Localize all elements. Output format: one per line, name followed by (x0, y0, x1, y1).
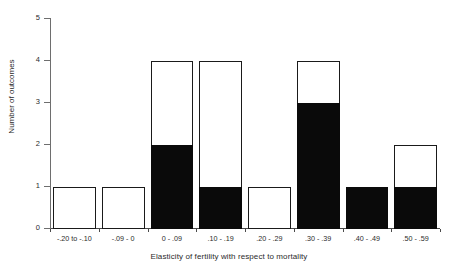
histogram-bar-filled-segment (394, 187, 437, 229)
histogram-bar-filled-segment (199, 187, 242, 229)
histogram-figure: 012345 -.20 to -.10-.09 - 00 - .09.10 - … (0, 0, 458, 277)
x-axis-category-label: 0 - .09 (148, 234, 197, 244)
y-axis-tick-label: 4 (28, 54, 40, 65)
x-axis-category-label: .20 - .29 (245, 234, 294, 244)
x-axis-tick (148, 229, 149, 232)
histogram-bar (394, 145, 437, 229)
x-axis-tick (391, 229, 392, 232)
histogram-bar (151, 61, 194, 229)
bars-layer (50, 18, 440, 229)
x-axis-tick (50, 229, 51, 232)
x-axis-tick (294, 229, 295, 232)
histogram-bar-filled-segment (151, 145, 194, 229)
x-axis-tick (245, 229, 246, 232)
histogram-bar-filled-segment (346, 187, 389, 229)
x-axis-tick (440, 229, 441, 232)
x-axis-category-label: -.20 to -.10 (50, 234, 99, 244)
y-axis-tick-label: 5 (28, 12, 40, 23)
y-axis-tick-label: 2 (28, 138, 40, 149)
histogram-bar (102, 187, 145, 229)
x-axis-tick (196, 229, 197, 232)
x-axis-title: Elasticity of fertility with respect to … (0, 252, 458, 261)
histogram-bar (346, 187, 389, 229)
y-axis-title: Number of outcomes (7, 32, 16, 162)
histogram-bar-filled-segment (297, 103, 340, 229)
x-axis-tick (99, 229, 100, 232)
histogram-bar (248, 187, 291, 229)
x-axis-tick (343, 229, 344, 232)
y-axis-tick-label: 0 (28, 222, 40, 233)
x-axis-category-label: .40 - .49 (343, 234, 392, 244)
y-axis-tick-label: 3 (28, 96, 40, 107)
histogram-bar (199, 61, 242, 229)
histogram-bar (53, 187, 96, 229)
x-axis-category-label: -.09 - 0 (99, 234, 148, 244)
x-axis-category-label: .30 - .39 (294, 234, 343, 244)
y-axis-tick-label: 1 (28, 180, 40, 191)
x-axis-category-label: .10 - .19 (196, 234, 245, 244)
x-axis-category-label: .50 - .59 (391, 234, 440, 244)
histogram-bar (297, 61, 340, 229)
